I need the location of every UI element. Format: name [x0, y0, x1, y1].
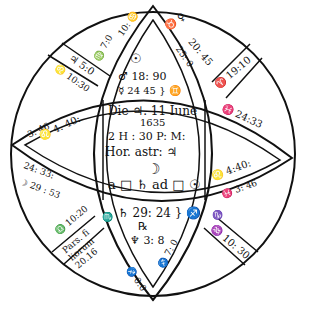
saturn-icon: ♄	[118, 206, 129, 220]
mars-position: ♂ 18: 90	[118, 72, 167, 82]
mars-icon: ♂	[118, 70, 128, 83]
mercury-position: ☿ 24 45 } ♊	[118, 86, 181, 96]
astronomical-hour: Hor. astr: ♃	[105, 145, 177, 159]
saturn-position: ♄ 29: 24 } ♐	[118, 208, 201, 218]
birth-time: 2 H : 30 P: M:	[108, 130, 185, 143]
birth-date: Die ♃. 11 Iune	[108, 104, 197, 118]
moon-icon: ☽	[147, 160, 160, 178]
mercury-icon: ☿	[118, 85, 124, 96]
birth-year: 1635	[140, 117, 165, 128]
sun-icon: ☉	[130, 54, 142, 64]
node-icon: ♆	[130, 234, 140, 247]
house5-cusp: ♏	[102, 212, 113, 222]
aspect-line: a □ ♄ ad □ ☉	[108, 177, 201, 192]
retrograde-icon: ℞	[138, 222, 148, 232]
neptune-position: ♆ 3: 8	[130, 236, 165, 246]
house4-cusp: ♑	[212, 210, 223, 220]
